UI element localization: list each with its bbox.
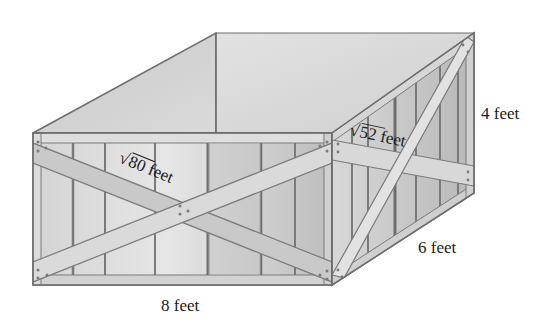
height-label: 4 feet [481,104,520,123]
depth-label: 6 feet [418,238,457,257]
interior-left-wall [33,33,216,133]
length-label: 8 feet [161,296,200,315]
crate-diagram: √ 80 feet √ 52 feet 4 feet 6 feet 8 feet [0,0,560,323]
front-face [33,133,332,285]
